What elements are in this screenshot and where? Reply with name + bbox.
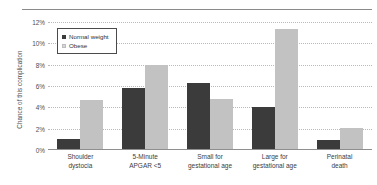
x-axis-category-label: Perinataldeath [307,153,372,170]
bar[interactable] [145,65,168,150]
x-axis-baseline [48,149,372,150]
bar[interactable] [80,100,103,150]
y-axis-tick-label: 0% [5,147,45,154]
x-axis-category-label: Small forgestational age [178,153,243,170]
bar-group [242,22,307,150]
top-divider-rule [22,9,372,10]
bar[interactable] [122,88,145,150]
bar[interactable] [210,99,233,150]
bar-group [178,22,243,150]
x-axis-category-label: Shoulderdystocia [48,153,113,170]
legend-item-normal-weight: Normal weight [62,32,109,41]
legend-swatch-obese-icon [62,44,66,48]
x-axis-category-label: Large forgestational age [242,153,307,170]
bar-group [307,22,372,150]
y-axis-tick-label: 2% [5,125,45,132]
legend-label-normal-weight: Normal weight [69,33,109,40]
bar[interactable] [340,128,363,150]
y-axis-tick-label: 12% [5,19,45,26]
x-axis-category-label: 5-MinuteAPGAR <5 [113,153,178,170]
y-axis-tick-label: 10% [5,40,45,47]
bar[interactable] [275,29,298,150]
bar-group [113,22,178,150]
y-axis-tick-label: 4% [5,104,45,111]
x-axis-category-labels: Shoulderdystocia5-MinuteAPGAR <5Small fo… [48,153,372,170]
bar-chart-figure: Chance of this complication 0%2%4%6%8%10… [0,0,377,185]
y-axis-tick-label: 8% [5,61,45,68]
bar[interactable] [252,107,275,150]
legend-label-obese: Obese [69,42,87,49]
legend-swatch-normal-weight-icon [62,35,66,39]
legend-item-obese: Obese [62,41,109,50]
y-axis-tick-label: 6% [5,83,45,90]
bar[interactable] [187,83,210,150]
chart-legend: Normal weight Obese [57,28,117,54]
